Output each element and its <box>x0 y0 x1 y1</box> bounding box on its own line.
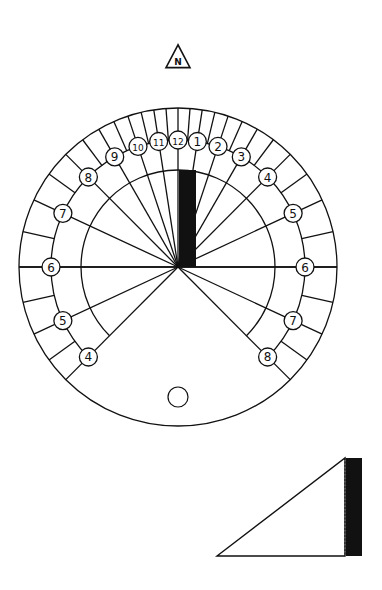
hour-label: 2 <box>214 140 222 154</box>
hour-marker: 12 <box>169 131 187 149</box>
hour-marker: 6 <box>296 258 314 276</box>
hour-marker: 2 <box>209 137 227 155</box>
gnomon-side-view <box>217 458 362 556</box>
hour-marker: 10 <box>129 137 147 155</box>
hour-label: 6 <box>301 261 309 275</box>
sundial-diagram: N 45678910111212345678 <box>0 0 382 590</box>
hour-label: 7 <box>59 207 67 221</box>
ring-divider <box>166 108 168 140</box>
ring-divider <box>229 122 242 151</box>
gnomon-triangle <box>217 458 345 556</box>
hour-marker: 11 <box>150 132 168 150</box>
ring-divider <box>114 122 127 151</box>
hour-marker: 9 <box>106 148 124 166</box>
ring-divider <box>302 232 333 239</box>
hour-marker: 5 <box>284 204 302 222</box>
ring-divider <box>281 341 307 360</box>
ring-divider <box>23 232 54 239</box>
gnomon-shadow-bar <box>179 170 196 267</box>
hour-label: 7 <box>289 314 297 328</box>
hour-label: 5 <box>59 314 67 328</box>
hour-label: 9 <box>111 150 119 164</box>
ring-divider <box>188 108 190 140</box>
ring-divider <box>281 174 307 193</box>
ring-divider <box>254 140 273 166</box>
dial-face: 45678910111212345678 <box>19 108 337 426</box>
ring-divider <box>302 295 333 302</box>
hour-marker: 8 <box>259 348 277 366</box>
hour-label: 10 <box>132 143 144 153</box>
hour-marker: 6 <box>42 258 60 276</box>
hour-label: 8 <box>85 171 93 185</box>
hour-label: 4 <box>85 350 93 364</box>
north-marker: N <box>166 45 190 68</box>
hour-marker: 4 <box>79 348 97 366</box>
hour-label: 1 <box>194 135 202 149</box>
hour-marker: 8 <box>79 168 97 186</box>
hour-label: 6 <box>47 261 55 275</box>
hour-label: 3 <box>237 150 245 164</box>
hour-marker: 1 <box>188 132 206 150</box>
hour-label: 4 <box>264 171 272 185</box>
hour-label: 12 <box>172 137 183 147</box>
ring-divider <box>83 140 102 166</box>
hour-marker: 7 <box>54 204 72 222</box>
north-label: N <box>174 57 182 67</box>
mounting-hole-icon <box>168 387 188 407</box>
gnomon-edge-bar <box>346 458 362 556</box>
ring-divider <box>49 341 75 360</box>
hour-label: 11 <box>153 138 164 148</box>
hour-marker: 4 <box>259 168 277 186</box>
ring-divider <box>23 295 54 302</box>
hour-label: 5 <box>289 207 297 221</box>
hour-marker: 3 <box>232 148 250 166</box>
hour-label: 8 <box>264 350 272 364</box>
hour-marker: 5 <box>54 312 72 330</box>
ring-divider <box>49 174 75 193</box>
hour-marker: 7 <box>284 312 302 330</box>
